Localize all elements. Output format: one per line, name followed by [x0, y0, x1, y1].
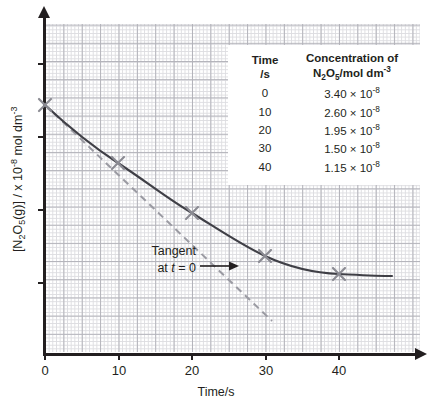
x-axis-line [43, 353, 417, 356]
cell-time: 10 [238, 103, 292, 121]
x-tick-20 [191, 353, 193, 360]
conc-exponent: -8 [372, 141, 379, 150]
table-row: 20 1.95 × 10-8 [238, 122, 412, 140]
y-axis-title: [N2O5(g)] / x 10-8 mol dm-3 [9, 49, 28, 309]
cell-time: 20 [238, 122, 292, 140]
table-row: 30 1.50 × 10-8 [238, 140, 412, 158]
conc-exponent: -8 [372, 105, 379, 114]
conc-units-exponent: -3 [384, 65, 391, 74]
data-table: Time /s Concentration of N2O5/mol dm-3 0… [228, 45, 422, 185]
conc-base: 10 [360, 107, 373, 119]
multiplication-sign: × [350, 125, 357, 137]
concentration-time-graph-figure: 4 3 2 1 0 10 20 30 40 [0, 0, 432, 406]
conc-mantissa: 2.60 [324, 107, 346, 119]
tangent-equals-zero-text: = 0 [175, 261, 196, 275]
cell-concentration: 1.95 × 10-8 [292, 122, 412, 140]
x-tick-30 [265, 353, 267, 360]
y-tick-1 [38, 282, 45, 284]
y-title-sub-5: 5 [17, 220, 27, 225]
conc-mantissa: 3.40 [324, 88, 346, 100]
conc-base: 10 [360, 88, 373, 100]
conc-exponent: -8 [372, 160, 379, 169]
multiplication-sign: × [350, 162, 357, 174]
y-axis-arrow-icon [38, 6, 50, 18]
conc-formula-o: O [326, 67, 335, 79]
cell-concentration: 1.15 × 10-8 [292, 158, 412, 176]
x-tick-label-20: 20 [177, 364, 207, 377]
table-header-time-line1: Time [252, 54, 279, 66]
y-tick-2 [38, 209, 45, 211]
cell-concentration: 1.50 × 10-8 [292, 140, 412, 158]
conc-mantissa: 1.50 [324, 143, 346, 155]
table-body: 0 3.40 × 10-8 10 2.60 × 10-8 20 1.95 × 1… [238, 85, 412, 177]
multiplication-sign: × [350, 88, 357, 100]
y-title-sub-2: 2 [17, 235, 27, 240]
conc-units-text: /mol dm [340, 67, 384, 79]
table-row: 0 3.40 × 10-8 [238, 85, 412, 103]
tangent-annotation-line1: Tangent [152, 244, 196, 258]
multiplication-sign: × [350, 107, 357, 119]
x-tick-40 [338, 353, 340, 360]
table-header-concentration: Concentration of N2O5/mol dm-3 [292, 51, 412, 85]
table-header-time: Time /s [238, 51, 292, 85]
x-tick-label-30: 30 [251, 364, 281, 377]
conc-base: 10 [360, 162, 373, 174]
x-tick-0 [44, 353, 46, 360]
table-row: 10 2.60 × 10-8 [238, 103, 412, 121]
table-header-row: Time /s Concentration of N2O5/mol dm-3 [238, 51, 412, 85]
tangent-at-text: at [157, 261, 171, 275]
cell-time: 30 [238, 140, 292, 158]
y-title-units: mol dm [11, 115, 25, 159]
cell-concentration: 3.40 × 10-8 [292, 85, 412, 103]
conc-mantissa: 1.15 [324, 162, 346, 174]
y-tick-3 [38, 136, 45, 138]
table-header-time-line2: /s [260, 68, 270, 80]
x-axis-arrow-icon [415, 348, 427, 360]
y-title-o: O [11, 225, 25, 235]
conc-base: 10 [360, 143, 373, 155]
y-title-state-scale: (g)] / x 10 [11, 167, 25, 220]
y-title-n: [N [11, 240, 25, 253]
table-row: 40 1.15 × 10-8 [238, 158, 412, 176]
x-tick-label-0: 0 [30, 364, 60, 377]
y-axis-line [43, 16, 46, 356]
y-tick-4 [38, 63, 45, 65]
tangent-annotation-line2: at t = 0 [118, 260, 196, 277]
x-tick-label-40: 40 [324, 364, 354, 377]
x-tick-10 [118, 353, 120, 360]
x-tick-label-10: 10 [104, 364, 134, 377]
conc-mantissa: 1.95 [324, 125, 346, 137]
table-header-conc-line2: N2O5/mol dm-3 [313, 67, 391, 79]
multiplication-sign: × [350, 143, 357, 155]
tangent-annotation-label: Tangent at t = 0 [118, 243, 196, 277]
cell-concentration: 2.60 × 10-8 [292, 103, 412, 121]
conc-base: 10 [360, 125, 373, 137]
table-header-conc-line1: Concentration of [306, 52, 398, 64]
cell-time: 0 [238, 85, 292, 103]
y-title-exponent: -8 [9, 159, 19, 167]
y-title-units-exponent: -3 [9, 107, 19, 115]
x-axis-title: Time/s [0, 385, 432, 399]
conc-exponent: -8 [372, 86, 379, 95]
conc-exponent: -8 [372, 123, 379, 132]
cell-time: 40 [238, 158, 292, 176]
